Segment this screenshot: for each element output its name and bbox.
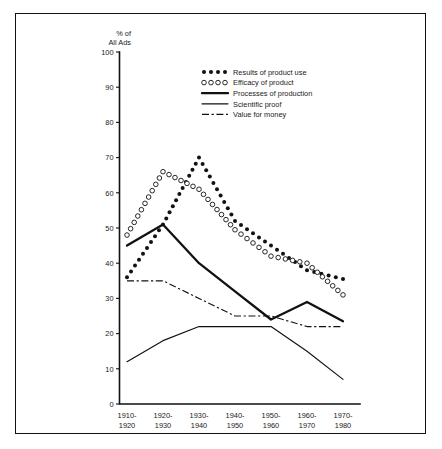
legend-label: Scientific proof xyxy=(233,100,282,109)
y-tick-label: 10 xyxy=(105,365,113,374)
data-point-filled xyxy=(153,234,157,238)
data-point-open xyxy=(336,288,341,293)
y-tick-label: 80 xyxy=(105,118,113,127)
data-point-open xyxy=(310,265,315,270)
data-point-filled xyxy=(201,162,205,166)
data-point-filled xyxy=(177,192,181,196)
x-tick-label: 1950- xyxy=(262,411,281,420)
data-point-filled xyxy=(275,248,279,252)
x-tick-label: 1920- xyxy=(154,411,173,420)
data-point-open xyxy=(276,255,281,260)
legend-swatch-dots-filled xyxy=(216,70,220,74)
data-point-open xyxy=(224,217,229,222)
y-axis-tick-labels: 0102030405060708090100 xyxy=(101,48,113,409)
data-point-open xyxy=(201,192,206,197)
x-tick-label: 1910- xyxy=(118,411,137,420)
data-point-open xyxy=(206,197,211,202)
data-point-open xyxy=(139,207,144,212)
data-point-open xyxy=(128,226,133,231)
data-point-filled xyxy=(215,187,219,191)
x-tick-label: 1940- xyxy=(226,411,245,420)
data-point-open xyxy=(305,261,310,266)
legend-swatch-dots-open xyxy=(216,80,221,85)
data-point-filled xyxy=(149,240,153,244)
data-series xyxy=(125,156,346,380)
data-point-filled xyxy=(305,268,309,272)
data-point-open xyxy=(257,245,262,250)
data-point-open xyxy=(245,236,250,241)
y-tick-label: 100 xyxy=(101,48,113,57)
y-axis-title-line1: % of xyxy=(116,29,132,38)
data-point-filled xyxy=(245,227,249,231)
data-point-open xyxy=(239,232,244,237)
data-point-open xyxy=(228,222,233,227)
y-tick-label: 50 xyxy=(105,224,113,233)
data-point-open xyxy=(150,188,155,193)
legend-swatch-dots-open xyxy=(223,80,228,85)
data-point-filled xyxy=(197,156,201,160)
data-point-open xyxy=(210,202,215,207)
series-path xyxy=(127,224,343,321)
data-point-filled xyxy=(168,210,172,214)
x-tick-label: 1930- xyxy=(190,411,209,420)
legend-label: Value for money xyxy=(233,110,287,119)
data-point-filled xyxy=(211,181,215,185)
y-tick-label: 90 xyxy=(105,83,113,92)
y-tick-label: 60 xyxy=(105,189,113,198)
y-tick-label: 0 xyxy=(109,400,113,409)
data-point-filled xyxy=(208,175,212,179)
legend-label: Results of product use xyxy=(233,68,307,77)
data-point-filled xyxy=(233,219,237,223)
chart-legend: Results of product useEfficacy of produc… xyxy=(202,68,313,119)
data-point-open xyxy=(179,178,184,183)
data-point-filled xyxy=(239,223,243,227)
data-point-open xyxy=(167,172,172,177)
data-point-filled xyxy=(204,168,208,172)
legend-item: Results of product use xyxy=(202,68,307,77)
data-point-open xyxy=(283,257,288,262)
data-point-filled xyxy=(190,168,194,172)
data-point-filled xyxy=(226,206,230,210)
data-point-open xyxy=(325,279,330,284)
data-point-open xyxy=(330,284,335,289)
data-point-filled xyxy=(141,252,145,256)
data-point-filled xyxy=(129,269,133,273)
data-point-open xyxy=(320,274,325,279)
data-point-open xyxy=(315,270,320,275)
data-point-open xyxy=(157,176,162,181)
y-axis-title-line2: All Ads xyxy=(108,38,131,47)
data-point-open xyxy=(298,259,303,264)
data-point-open xyxy=(146,195,151,200)
data-point-open xyxy=(341,293,346,298)
data-point-filled xyxy=(263,239,267,243)
series-path xyxy=(127,327,343,380)
data-point-open xyxy=(185,181,190,186)
legend-label: Processes of production xyxy=(233,89,312,98)
data-point-open xyxy=(251,241,256,246)
data-point-filled xyxy=(334,275,338,279)
data-point-filled xyxy=(174,198,178,202)
series-results-of-product-use xyxy=(125,156,345,281)
legend-item: Value for money xyxy=(202,110,287,119)
legend-swatch-dots-filled xyxy=(209,70,213,74)
x-tick-label: 1940 xyxy=(191,421,207,430)
legend-swatch-dots-open xyxy=(202,80,207,85)
data-point-open xyxy=(215,207,220,212)
data-point-open xyxy=(154,182,159,187)
data-point-open xyxy=(173,175,178,180)
series-scientific-proof xyxy=(127,327,343,380)
data-point-open xyxy=(161,169,166,174)
data-point-filled xyxy=(219,194,223,198)
x-tick-label: 1930 xyxy=(155,421,171,430)
data-point-filled xyxy=(257,235,261,239)
figure-container: 0102030405060708090100 1910-19201920-193… xyxy=(0,0,442,449)
legend-label: Efficacy of product xyxy=(233,78,294,87)
legend-item: Scientific proof xyxy=(202,100,282,109)
x-axis-tick-labels: 1910-19201920-19301930-19401940-19501950… xyxy=(118,411,353,430)
data-point-filled xyxy=(133,264,137,268)
data-point-filled xyxy=(145,246,149,250)
data-point-filled xyxy=(341,277,345,281)
legend-item: Efficacy of product xyxy=(202,78,294,87)
y-axis-title: % of All Ads xyxy=(108,29,132,47)
y-tick-label: 20 xyxy=(105,329,113,338)
